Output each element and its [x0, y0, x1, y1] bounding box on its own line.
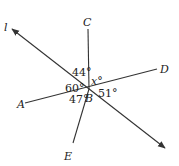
label-c: C [83, 16, 92, 29]
angle-44: 44° [72, 66, 92, 79]
label-a: A [16, 98, 25, 111]
angle-47: 47° [69, 93, 89, 106]
geometry-diagram: l C D A B E 44° 60° 47° 51° x° [0, 0, 179, 166]
label-l: l [4, 21, 8, 34]
label-d: D [159, 63, 169, 76]
angle-x: x° [91, 75, 103, 88]
angle-51: 51° [98, 87, 118, 100]
ray-bc [88, 29, 89, 89]
label-e: E [63, 150, 72, 163]
